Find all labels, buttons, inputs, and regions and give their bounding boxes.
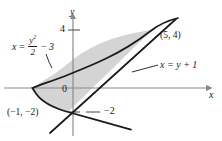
point-label-lower-intersection: (−1, −2) <box>7 108 38 118</box>
parabola-eq-lhs: x <box>12 42 16 52</box>
tick-label-y-minus2: −2 <box>104 106 115 116</box>
math-figure: y x 4 −2 0 x = y2 2 − 3 x = y + 1 (5, 4)… <box>0 0 222 141</box>
parabola-eq-minus: − <box>40 42 47 52</box>
tick-label-y-4: 4 <box>60 24 65 34</box>
line-label-leader <box>132 65 158 72</box>
origin-label: 0 <box>62 84 67 94</box>
parabola-eq-denominator: 2 <box>29 47 36 57</box>
line-equation-label: x = y + 1 <box>160 60 197 70</box>
parabola-eq-exponent: 2 <box>33 34 36 40</box>
parabola-eq-fraction: y2 2 <box>28 36 37 57</box>
x-axis-label: x <box>209 90 213 100</box>
parabola-eq-equals: = <box>18 42 25 52</box>
parabola-eq-numerator: y2 <box>28 36 37 46</box>
point-label-upper-intersection: (5, 4) <box>160 31 181 41</box>
y-axis-label: y <box>70 7 74 17</box>
parabola-eq-constant: 3 <box>49 42 54 52</box>
parabola-equation-label: x = y2 2 − 3 <box>12 36 54 57</box>
plot-canvas <box>0 0 222 141</box>
